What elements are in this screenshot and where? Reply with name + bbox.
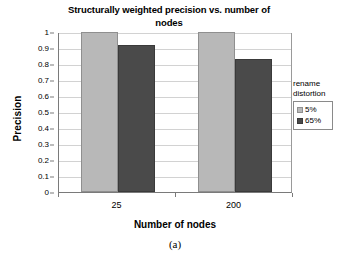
legend-entry-label: 65%: [305, 116, 321, 126]
legend-swatch-icon: [297, 107, 303, 113]
legend-entry[interactable]: 5%: [297, 105, 329, 115]
y-axis-tick-mark: [50, 161, 54, 162]
y-axis-tick-label: 0.1: [38, 173, 49, 181]
y-axis-tick-mark: [50, 193, 54, 194]
figure-caption: (a): [0, 238, 350, 250]
y-axis-tick-mark: [50, 97, 54, 98]
x-axis-tick-mark: [292, 193, 293, 197]
bar-group: [198, 33, 272, 192]
bar[interactable]: [118, 45, 155, 192]
legend-title-line-2: distortion: [293, 89, 348, 99]
chart-title-line-1: Structurally weighted precision vs. numb…: [30, 4, 308, 17]
bar[interactable]: [198, 32, 235, 192]
bar[interactable]: [235, 59, 272, 192]
legend-box: 5%65%: [293, 101, 333, 130]
legend-title-line-1: rename: [293, 79, 348, 89]
y-axis-tick-mark: [50, 65, 54, 66]
y-axis-tick-mark: [50, 113, 54, 114]
y-axis-tick-label: 0.7: [38, 77, 49, 85]
y-axis-tick-label: 1: [45, 29, 49, 37]
legend-title: rename distortion: [292, 79, 348, 98]
legend: rename distortion 5%65%: [292, 79, 348, 130]
y-axis-tick-mark: [50, 49, 54, 50]
y-axis-tick-label: 0.8: [38, 61, 49, 69]
y-axis-title: Precision: [12, 79, 23, 159]
y-axis-tick-label: 0.9: [38, 45, 49, 53]
y-axis-tick-mark: [50, 81, 54, 82]
legend-entry-label: 5%: [305, 105, 317, 115]
bar[interactable]: [81, 32, 118, 192]
y-axis-tick-label: 0.3: [38, 141, 49, 149]
y-axis-tick-label: 0.6: [38, 93, 49, 101]
plot-area: [58, 33, 292, 193]
x-axis-tick-label: 25: [111, 200, 121, 210]
figure-container: Structurally weighted precision vs. numb…: [0, 0, 350, 262]
y-axis-tick-label: 0.4: [38, 125, 49, 133]
chart-title: Structurally weighted precision vs. numb…: [30, 4, 308, 29]
bar-group: [81, 33, 155, 192]
y-axis-tick-mark: [50, 145, 54, 146]
y-axis-tick-mark: [50, 129, 54, 130]
x-axis-tick-mark: [175, 193, 176, 197]
y-axis-tick-mark: [50, 177, 54, 178]
x-axis-tick-mark: [58, 193, 59, 197]
x-axis-title: Number of nodes: [58, 219, 292, 230]
y-axis-tick-label: 0: [45, 189, 49, 197]
y-axis-tick-label: 0.2: [38, 157, 49, 165]
legend-swatch-icon: [297, 118, 303, 124]
chart-title-line-2: nodes: [30, 17, 308, 30]
x-axis-tick-label: 200: [226, 200, 241, 210]
legend-entry[interactable]: 65%: [297, 116, 329, 126]
y-axis-tick-label: 0.5: [38, 109, 49, 117]
y-axis-tick-labels: 10.90.80.70.60.50.40.30.20.10: [24, 33, 54, 193]
y-axis-tick-mark: [50, 33, 54, 34]
